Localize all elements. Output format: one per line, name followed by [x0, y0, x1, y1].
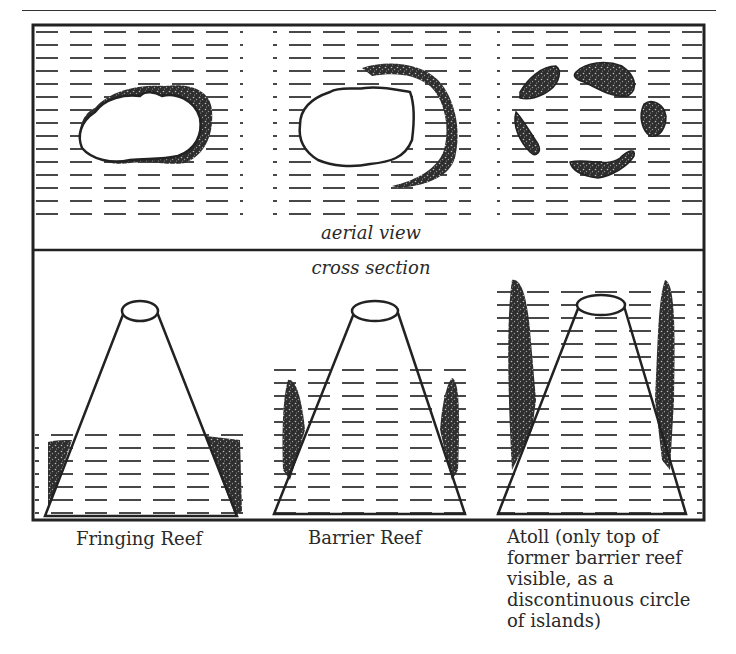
- caption-atoll: Atoll (only top of former barrier reef v…: [507, 526, 691, 631]
- caption-atoll-line-3: visible, as a: [507, 568, 691, 589]
- summit-barrier: [352, 301, 398, 321]
- caption-atoll-line-2: former barrier reef: [507, 547, 691, 568]
- cross-barrier: [273, 301, 469, 518]
- caption-atoll-line-5: of islands): [507, 610, 691, 631]
- cross-fringing: [35, 301, 243, 518]
- caption-atoll-line-1: Atoll (only top of: [507, 526, 691, 547]
- cross-section-label: cross section: [273, 257, 469, 278]
- caption-atoll-line-4: discontinuous circle: [507, 589, 691, 610]
- summit-fringing: [122, 301, 158, 321]
- caption-fringing-reef: Fringing Reef: [76, 528, 202, 549]
- summit-atoll: [577, 295, 625, 315]
- aerial-view-label: aerial view: [273, 222, 469, 243]
- cross-atoll: [497, 280, 702, 518]
- island-barrier: [300, 87, 414, 166]
- aerial-atoll-water: [497, 30, 702, 218]
- caption-barrier-reef: Barrier Reef: [308, 527, 421, 548]
